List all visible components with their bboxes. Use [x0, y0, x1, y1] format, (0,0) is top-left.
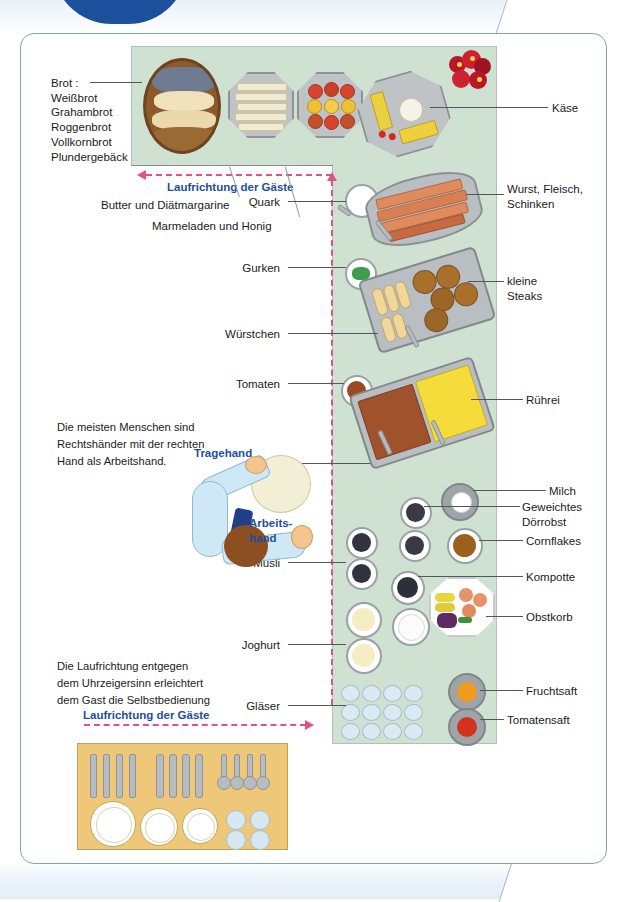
milch-leader [473, 490, 546, 491]
buffet-table-join [333, 164, 496, 168]
quark-label: Quark [230, 195, 280, 210]
fruit-juice-dispenser [448, 673, 486, 711]
guest-work-hand [291, 525, 313, 549]
muesli-bowl-1 [346, 527, 378, 559]
steaks-leader [468, 281, 504, 282]
cup-3 [226, 830, 246, 850]
flower-decoration [448, 50, 492, 92]
doerrobst-bowl-2 [399, 530, 431, 562]
wurst-leader [466, 194, 504, 195]
bread-leader [90, 82, 142, 83]
joghurt-bowl-1 [346, 602, 382, 638]
muesli-bowl-2 [346, 558, 378, 590]
work-hand-callout: Arbeits- hand [249, 516, 292, 546]
tomatensaft-label: Tomatensaft [507, 713, 570, 728]
buffet-notch-edge [131, 165, 333, 166]
cereal-white-bowl [392, 608, 430, 646]
glaeser-leader [288, 705, 346, 706]
counterclockwise-note: Die Laufrichtung entgegen dem Uhrzeigers… [57, 658, 257, 708]
tomaten-leader [288, 383, 344, 384]
joghurt-label: Joghurt [212, 638, 280, 653]
direction-bottom-callout: Laufrichtung der Gäste [83, 708, 210, 723]
cornflakes-leader [479, 540, 523, 541]
jam-label: Marmeladen und Honig [152, 219, 272, 234]
quark-leader [288, 201, 346, 202]
bottom-diagonal-accent [499, 862, 629, 902]
guest-path-up-arrow [327, 172, 337, 181]
milk-dispenser [441, 483, 479, 521]
gurken-leader [288, 267, 346, 268]
cornflakes-bowl [447, 528, 483, 564]
joghurt-bowl-2 [346, 638, 382, 674]
kaese-leader [430, 107, 548, 108]
cup-4 [250, 830, 270, 850]
guest-path-bottom-arrow [305, 720, 314, 730]
kompotte-leader [418, 576, 523, 577]
guest-path-top-arrow [137, 170, 146, 180]
guest-path-top [146, 174, 332, 176]
joghurt-leader [288, 644, 346, 645]
kaese-label: Käse [552, 101, 578, 116]
wuerstchen-leader [288, 333, 378, 334]
dinner-plate-medium [140, 808, 178, 846]
obstkorb-leader [486, 616, 523, 617]
bread-label: Brot : Weißbrot Grahambrot Roggenbrot Vo… [51, 76, 161, 164]
guest-path-bottom [84, 724, 306, 726]
tomaten-label: Tomaten [210, 377, 280, 392]
guest-path-right-vertical [331, 180, 333, 705]
ruehrei-leader [471, 399, 523, 400]
tomato-juice-dispenser [448, 708, 486, 746]
wuerstchen-label: Würstchen [200, 327, 280, 342]
cup-2 [250, 810, 270, 830]
ruehrei-label: Rührei [526, 393, 560, 408]
obstkorb-label: Obstkorb [526, 610, 573, 625]
glasses-group [341, 685, 423, 741]
carry-hand-callout: Tragehand [194, 446, 252, 461]
steaks-label: kleine Steaks [507, 274, 542, 303]
cornflakes-label: Cornflakes [526, 534, 581, 549]
fruchtsaft-leader [480, 690, 523, 691]
direction-top-callout: Laufrichtung der Gäste [167, 180, 294, 195]
butter-label: Butter und Diätmargarine [101, 198, 229, 213]
kompotte-label: Kompotte [526, 570, 575, 585]
doerrobst-leader [424, 506, 520, 507]
dinner-plate-small [182, 808, 218, 844]
dinner-plate-large [90, 801, 136, 847]
place-setting-illustration [77, 743, 288, 850]
fruchtsaft-label: Fruchtsaft [526, 684, 577, 699]
cup-1 [226, 810, 246, 830]
doerrobst-bowl-1 [400, 497, 432, 529]
tomatensaft-leader [480, 719, 504, 720]
doerrobst-label: Geweichtes Dörrobst [522, 500, 582, 529]
gurken-label: Gurken [218, 261, 280, 276]
milch-label: Milch [549, 484, 576, 499]
wurst-label: Wurst, Fleisch, Schinken [507, 182, 583, 211]
